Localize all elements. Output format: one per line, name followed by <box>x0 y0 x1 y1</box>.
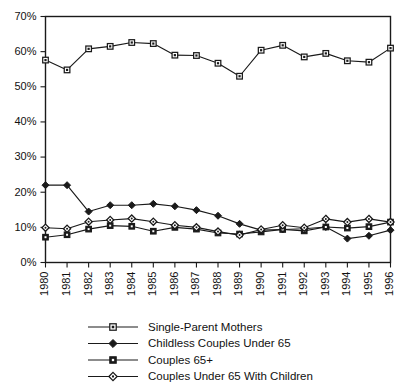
marker-core <box>303 227 305 229</box>
marker-core <box>88 221 90 223</box>
y-tick-label: 70% <box>14 10 36 22</box>
x-tick-label: 1987 <box>189 272 201 296</box>
marker-core <box>174 224 176 226</box>
marker-core <box>303 56 305 58</box>
marker-core <box>152 221 154 223</box>
x-tick-label: 1991 <box>276 272 288 296</box>
marker-core <box>346 60 348 62</box>
marker-core <box>325 218 327 220</box>
marker-core <box>239 234 241 236</box>
x-tick-label: 1981 <box>60 272 72 296</box>
y-tick-label: 10% <box>14 221 36 233</box>
x-tick-label: 1983 <box>103 272 115 296</box>
marker-core <box>66 69 68 71</box>
marker-core <box>325 226 327 228</box>
y-tick-label: 60% <box>14 45 36 57</box>
marker-core <box>109 225 111 227</box>
marker-core <box>112 375 114 377</box>
marker-core <box>368 61 370 63</box>
marker-core <box>238 75 240 77</box>
marker-core <box>217 62 219 64</box>
marker-core <box>131 41 133 43</box>
marker-core <box>174 54 176 56</box>
marker-core <box>131 225 133 227</box>
x-tick-label: 1985 <box>146 272 158 296</box>
marker-core <box>45 227 47 229</box>
x-tick-label: 1993 <box>319 272 331 296</box>
marker-core <box>44 59 46 61</box>
marker-core <box>346 227 348 229</box>
marker-core <box>217 231 219 233</box>
legend-label: Couples Under 65 With Children <box>148 370 313 382</box>
marker-core <box>66 228 68 230</box>
x-tick-label: 1990 <box>254 272 266 296</box>
line-chart: 0%10%20%30%40%50%60%70% 1980198119821983… <box>0 0 407 387</box>
x-tick-label: 1984 <box>125 272 137 296</box>
marker-core <box>368 226 370 228</box>
marker-core <box>389 47 391 49</box>
marker-core <box>195 54 197 56</box>
y-tick-label: 30% <box>14 150 36 162</box>
marker-core <box>368 218 370 220</box>
marker-core <box>282 224 284 226</box>
x-tick-label: 1982 <box>82 272 94 296</box>
marker-core <box>260 228 262 230</box>
x-tick-label: 1986 <box>168 272 180 296</box>
x-tick-label: 1994 <box>340 272 352 296</box>
marker-core <box>131 218 133 220</box>
legend-label: Couples 65+ <box>148 354 213 366</box>
marker-core <box>195 226 197 228</box>
marker-core <box>325 52 327 54</box>
chart-figure: 0%10%20%30%40%50%60%70% 1980198119821983… <box>0 0 407 387</box>
y-tick-label: 50% <box>14 80 36 92</box>
x-tick-label: 1980 <box>38 272 50 296</box>
marker-core <box>109 219 111 221</box>
marker-core <box>390 221 392 223</box>
x-tick-label: 1995 <box>362 272 374 296</box>
y-tick-label: 0% <box>21 256 37 268</box>
legend-label: Childless Couples Under 65 <box>148 337 291 349</box>
marker-core <box>152 42 154 44</box>
marker-core <box>66 234 68 236</box>
x-tick-label: 1996 <box>383 272 395 296</box>
marker-core <box>88 48 90 50</box>
marker-core <box>152 230 154 232</box>
marker-core <box>109 45 111 47</box>
marker-core <box>112 359 114 361</box>
marker-core <box>346 221 348 223</box>
x-tick-label: 1989 <box>232 272 244 296</box>
marker-core <box>282 44 284 46</box>
marker-core <box>260 49 262 51</box>
y-tick-label: 20% <box>14 186 36 198</box>
marker-core <box>112 326 115 329</box>
x-tick-label: 1988 <box>211 272 223 296</box>
marker-core <box>88 228 90 230</box>
x-tick-label: 1992 <box>297 272 309 296</box>
marker-core <box>45 236 47 238</box>
y-tick-label: 40% <box>14 115 36 127</box>
legend-label: Single-Parent Mothers <box>148 321 263 333</box>
